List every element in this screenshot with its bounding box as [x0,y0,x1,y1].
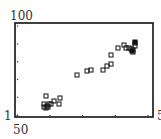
x-axis-right-label: 5 [157,110,161,122]
square-marker [44,94,48,98]
square-marker [58,96,62,100]
y-tick [17,97,18,98]
plot-frame [15,23,153,117]
square-marker [116,46,120,50]
y-tick [17,79,18,80]
filled-square-marker [130,49,135,54]
square-marker [89,68,93,72]
y-tick [17,61,18,62]
square-marker [109,62,113,66]
square-marker [105,64,109,68]
square-marker [85,69,89,73]
y-axis-top-label: 100 [10,10,33,22]
filled-square-marker [133,40,138,45]
axis-ticks [17,26,149,117]
square-marker [57,102,61,106]
x-tick [82,115,83,116]
x-tick [115,115,116,116]
square-marker [75,73,79,77]
data-points [42,40,138,111]
y-tick [17,43,18,44]
x-tick [49,115,50,116]
y-axis-bottom-label: 1 [4,110,12,122]
x-axis-left-label: 50 [13,124,28,136]
square-marker [101,68,105,72]
y-tick [17,26,18,27]
square-marker [109,53,113,57]
x-tick [17,115,18,116]
x-tick [148,115,149,116]
